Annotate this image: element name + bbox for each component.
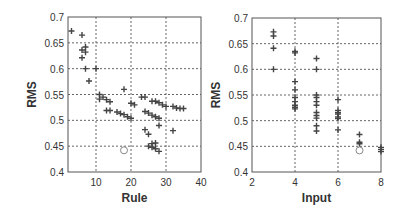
data-point-marker (314, 66, 320, 72)
y-tick-label: 0.7 (50, 12, 64, 23)
candidates-markers (271, 29, 385, 155)
x-axis-label: Rule (121, 191, 147, 205)
data-point-marker (357, 132, 363, 138)
y-tick-label: 0.5 (50, 115, 64, 126)
data-point-marker (292, 79, 298, 85)
x-tick-label: 30 (160, 177, 172, 188)
data-point-marker (271, 45, 277, 51)
x-tick-label: 2 (249, 177, 255, 188)
y-axis-label: RMS (25, 81, 39, 108)
data-point-marker (271, 66, 277, 72)
data-point-marker (69, 28, 75, 34)
candidates-markers (69, 28, 187, 154)
x-tick-label: 8 (378, 177, 384, 188)
y-tick-label: 0.55 (45, 90, 65, 101)
scatter-figure: 102030400.40.450.50.550.60.650.7RuleRMS … (0, 0, 402, 210)
y-axis-label: RMS (209, 82, 223, 109)
data-point-marker (271, 33, 277, 39)
data-point-marker (86, 78, 92, 84)
data-point-marker (142, 127, 148, 133)
selected-markers (121, 147, 128, 154)
y-tick-label: 0.7 (234, 13, 248, 24)
data-point-marker (121, 86, 127, 92)
y-tick-label: 0.6 (234, 64, 248, 75)
data-point-marker (153, 140, 159, 146)
selected-point-marker (356, 147, 363, 154)
data-point-marker (79, 55, 85, 61)
data-point-marker (170, 128, 176, 134)
x-axis-label: Input (302, 191, 331, 205)
y-tick-label: 0.65 (45, 38, 65, 49)
selected-markers (356, 147, 363, 154)
data-point-marker (93, 66, 99, 72)
data-point-marker (146, 131, 152, 137)
data-point-marker (314, 123, 320, 129)
y-tick-label: 0.45 (229, 141, 249, 152)
data-point-marker (314, 128, 320, 134)
x-tick-label: 40 (195, 177, 207, 188)
figure: 102030400.40.450.50.550.60.650.7RuleRMS … (0, 0, 402, 210)
data-point-marker (181, 105, 187, 111)
y-tick-label: 0.4 (234, 167, 248, 178)
y-tick-label: 0.4 (50, 167, 64, 178)
x-tick-label: 4 (292, 177, 298, 188)
data-point-marker (107, 108, 113, 114)
data-point-marker (292, 87, 298, 93)
selected-point-marker (121, 147, 128, 154)
grid (68, 17, 201, 172)
y-tick-label: 0.5 (234, 116, 248, 127)
data-point-marker (83, 44, 89, 50)
data-point-marker (156, 123, 162, 129)
input-vs-rms-panel: 24680.40.450.50.550.60.650.7InputRMS (209, 13, 384, 205)
rule-vs-rms-panel: 102030400.40.450.50.550.60.650.7RuleRMS (25, 12, 207, 205)
data-point-marker (314, 102, 320, 108)
data-point-marker (83, 66, 89, 72)
y-tick-label: 0.55 (229, 90, 249, 101)
x-tick-label: 10 (90, 177, 102, 188)
data-point-marker (335, 97, 341, 103)
data-point-marker (79, 32, 85, 38)
x-tick-label: 6 (335, 177, 341, 188)
data-point-marker (314, 56, 320, 62)
data-point-marker (335, 127, 341, 133)
y-tick-label: 0.45 (45, 141, 65, 152)
y-tick-label: 0.6 (50, 64, 64, 75)
y-tick-label: 0.65 (229, 39, 249, 50)
data-point-marker (142, 94, 148, 100)
x-tick-label: 20 (125, 177, 137, 188)
